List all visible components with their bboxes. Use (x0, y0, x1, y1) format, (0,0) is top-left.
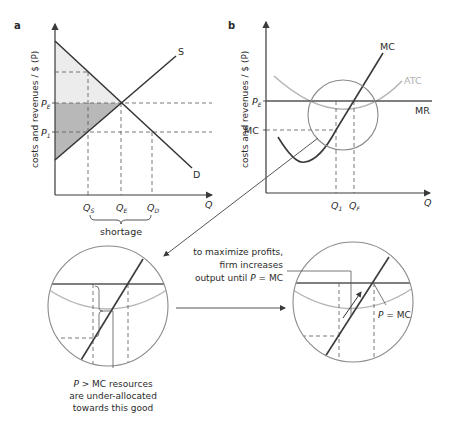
supply-label: S (178, 46, 184, 57)
qs-label: QS (83, 202, 94, 214)
shortage-label: shortage (100, 226, 142, 237)
panel-b-x-axis-label: Q (424, 197, 432, 208)
q1-label: Q1 (331, 200, 342, 212)
qd-label: QD (147, 202, 159, 214)
annotation-right-line2: firm increases (220, 260, 284, 270)
panel-a: a S D costs and revenues / $ (P) PE P1 Q… (14, 20, 213, 237)
zoom-right-atc-curve (290, 286, 416, 309)
zoom-right-circle (293, 242, 413, 362)
annotation-left-line1: PP > MC resources > MC resources (73, 379, 153, 389)
zoom-left-atc-curve (46, 288, 170, 309)
p1-label: P1 (41, 127, 51, 139)
focus-circle (308, 80, 378, 150)
shortage-bracket (90, 215, 151, 224)
panel-a-x-axis-label: Q (205, 199, 213, 210)
panel-b-label: b (228, 20, 235, 31)
mc-price-label: MC (244, 125, 259, 136)
zoom-right-panel: P = MC to maximize profits, firm increas… (193, 242, 420, 370)
panel-b-dashed-guides (266, 101, 354, 193)
zoom-right-mc-line (323, 257, 389, 360)
panel-a-y-axis-label: costs and revenues / $ (P) (30, 51, 40, 168)
annotation-right-line3: output until P = MC (195, 273, 283, 283)
pe-label-b: PE (252, 96, 262, 108)
p-mc-leader (374, 284, 386, 305)
qe-label: QE (116, 202, 127, 214)
atc-curve (274, 76, 402, 109)
zoom-right-leader (287, 271, 351, 316)
panel-a-label: a (14, 20, 21, 31)
diagram-canvas: a S D costs and revenues / $ (P) PE P1 Q… (0, 0, 454, 427)
zoom-left-circle (48, 246, 168, 366)
qf-label: QF (349, 200, 360, 212)
zoom-left-mc-line (78, 259, 143, 365)
demand-label: D (193, 169, 200, 180)
annotation-left-line2: are under-allocated (69, 391, 157, 401)
mr-label: MR (415, 105, 430, 116)
gap-bracket (95, 286, 103, 337)
panel-b-y-axis-label: costs and revenues / $ (P) (240, 51, 250, 168)
p-equals-mc-label: P = MC (378, 310, 411, 320)
pe-label: PE (41, 98, 51, 110)
mc-curve-label: MC (380, 41, 395, 52)
atc-label: ATC (404, 75, 422, 86)
zoom-left-panel: PP > MC resources > MC resources are und… (40, 246, 176, 413)
annotation-left-line3: towards this good (73, 403, 153, 413)
annotation-right-line1: to maximize profits, (193, 247, 283, 257)
